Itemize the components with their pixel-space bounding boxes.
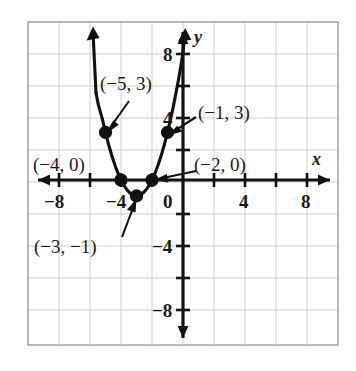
annotation-neg1-3: (−1, 3) xyxy=(198,103,250,122)
x-axis-label: x xyxy=(312,150,321,168)
x-tick-label-8: 8 xyxy=(301,192,311,211)
data-point-neg4-0 xyxy=(114,173,127,186)
x-tick-label-neg4: −4 xyxy=(106,192,126,211)
y-tick-label-4: 4 xyxy=(163,109,173,128)
y-tick-label-neg8: −8 xyxy=(152,301,172,320)
x-tick-label-4: 4 xyxy=(239,192,249,211)
annotation-neg4-0: (−4, 0) xyxy=(33,155,85,174)
annotation-neg3-neg1: (−3, −1) xyxy=(34,237,97,256)
y-tick-label-8: 8 xyxy=(163,45,173,64)
graph-figure: −8 −4 0 4 8 8 4 −4 −8 y x (−5, 3) (−1, 3… xyxy=(0,0,356,371)
y-tick-label-neg4: −4 xyxy=(152,237,172,256)
annotation-neg5-3: (−5, 3) xyxy=(100,74,152,93)
x-tick-label-neg8: −8 xyxy=(44,192,64,211)
y-axis-label: y xyxy=(194,28,202,46)
coordinate-plane-canvas xyxy=(0,0,356,371)
data-point-neg3-neg1 xyxy=(130,189,143,202)
annotation-neg2-0: (−2, 0) xyxy=(194,155,246,174)
x-tick-label-zero: 0 xyxy=(163,192,173,211)
